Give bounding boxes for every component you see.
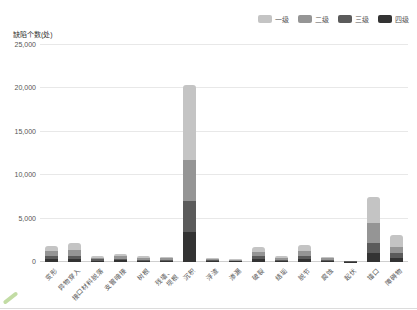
window-bottom-edge bbox=[0, 308, 417, 309]
bar-segment bbox=[183, 85, 196, 160]
bar-segment bbox=[367, 223, 380, 243]
x-axis-label: 渗漏 bbox=[228, 267, 243, 282]
stacked-bar bbox=[160, 257, 173, 262]
x-axis-label: 支管暗接 bbox=[103, 267, 128, 292]
legend-swatch bbox=[258, 15, 272, 23]
gridline bbox=[40, 87, 408, 88]
x-axis-label: 结垢 bbox=[274, 267, 289, 282]
bar-segment bbox=[114, 260, 127, 262]
bar-segment bbox=[183, 160, 196, 202]
legend-item-四级[interactable]: 四级 bbox=[378, 14, 409, 24]
gridline bbox=[40, 44, 408, 45]
legend-item-三级[interactable]: 三级 bbox=[338, 14, 369, 24]
bar-segment bbox=[229, 261, 242, 262]
plot-area bbox=[40, 45, 408, 262]
stacked-bar bbox=[252, 247, 265, 262]
bar-segment bbox=[390, 235, 403, 247]
x-axis-label: 树根 bbox=[136, 267, 151, 282]
bar-segment bbox=[68, 243, 81, 250]
x-axis-label: 错口 bbox=[366, 267, 381, 282]
stacked-bar bbox=[206, 258, 219, 262]
stacked-bar bbox=[183, 85, 196, 262]
legend: 一级二级三级四级 bbox=[258, 14, 409, 24]
stacked-bar bbox=[229, 259, 242, 262]
stacked-bar bbox=[275, 256, 288, 262]
gridline bbox=[40, 174, 408, 175]
legend-label: 三级 bbox=[355, 14, 369, 24]
stacked-bar bbox=[137, 256, 150, 262]
x-axis-label: 浮渣 bbox=[205, 267, 220, 282]
x-axis-label: 破裂 bbox=[251, 267, 266, 282]
legend-item-二级[interactable]: 二级 bbox=[298, 14, 329, 24]
bar-segment bbox=[183, 201, 196, 231]
x-axis-label: 腐蚀 bbox=[320, 267, 335, 282]
y-tick-label: 20,000 bbox=[2, 84, 36, 91]
stacked-bar bbox=[344, 261, 357, 262]
stacked-bar bbox=[321, 257, 334, 262]
legend-label: 二级 bbox=[315, 14, 329, 24]
legend-swatch bbox=[378, 15, 392, 23]
y-tick-label: 25,000 bbox=[2, 41, 36, 48]
watermark-mark bbox=[3, 291, 19, 305]
y-tick-label: 0 bbox=[2, 258, 36, 265]
legend-swatch bbox=[338, 15, 352, 23]
x-axis-label: 障碍物 bbox=[384, 267, 404, 287]
bar-segment bbox=[390, 258, 403, 262]
y-tick-label: 10,000 bbox=[2, 171, 36, 178]
stacked-bar bbox=[45, 246, 58, 262]
x-axis-label: 残墙、 坝根 bbox=[154, 267, 180, 293]
y-axis-title: 缺陷个数(处) bbox=[13, 29, 53, 39]
legend-label: 一级 bbox=[275, 14, 289, 24]
y-tick-label: 5,000 bbox=[2, 215, 36, 222]
bar-segment bbox=[183, 232, 196, 262]
legend-swatch bbox=[298, 15, 312, 23]
stacked-bar bbox=[298, 245, 311, 262]
gridline bbox=[40, 218, 408, 219]
bar-segment bbox=[206, 261, 219, 262]
bar-segment bbox=[252, 259, 265, 262]
bar-segment bbox=[45, 259, 58, 262]
legend-item-一级[interactable]: 一级 bbox=[258, 14, 289, 24]
bar-segment bbox=[298, 259, 311, 262]
stacked-bar bbox=[390, 235, 403, 262]
stacked-bar bbox=[91, 256, 104, 262]
bar-segment bbox=[160, 261, 173, 262]
bar-segment bbox=[367, 243, 380, 253]
x-axis-label: 沉积 bbox=[182, 267, 197, 282]
bar-segment bbox=[137, 261, 150, 262]
bar-segment bbox=[321, 261, 334, 262]
bar-segment bbox=[367, 197, 380, 223]
bar-segment bbox=[275, 261, 288, 262]
legend-label: 四级 bbox=[395, 14, 409, 24]
x-axis-label: 变形 bbox=[44, 267, 59, 282]
bar-segment bbox=[91, 261, 104, 262]
y-tick-label: 15,000 bbox=[2, 128, 36, 135]
stacked-bar bbox=[367, 197, 380, 262]
stacked-bar bbox=[68, 243, 81, 262]
bar-segment bbox=[68, 259, 81, 262]
stacked-bar bbox=[114, 254, 127, 262]
gridline bbox=[40, 131, 408, 132]
chart-window: 缺陷个数(处) 一级二级三级四级 变形异物穿入接口材料脱落支管暗接树根残墙、 坝… bbox=[0, 0, 417, 310]
bar-segment bbox=[367, 253, 380, 262]
x-axis-label: 脱节 bbox=[297, 267, 312, 282]
x-axis-label: 起伏 bbox=[343, 267, 358, 282]
